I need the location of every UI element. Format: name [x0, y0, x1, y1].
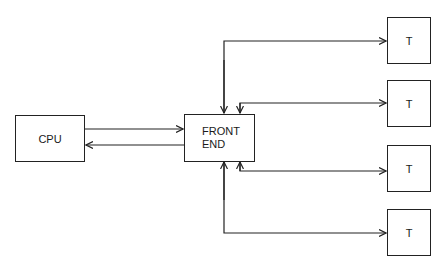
front-end-label-line2: END	[202, 138, 225, 151]
link-frontend-t2	[240, 103, 386, 113]
cpu-node: CPU	[15, 115, 85, 162]
terminal-label: T	[406, 35, 413, 47]
link-frontend-t4	[224, 162, 386, 233]
link-frontend-t3	[240, 162, 386, 171]
terminal-node-2: T	[387, 80, 431, 127]
terminal-node-4: T	[387, 209, 431, 256]
terminal-label: T	[406, 98, 413, 110]
terminal-node-3: T	[387, 145, 431, 192]
cpu-label: CPU	[38, 133, 61, 145]
front-end-label-line1: FRONT	[202, 125, 240, 138]
link-frontend-t1	[224, 41, 386, 113]
terminal-label: T	[406, 163, 413, 175]
front-end-node: FRONT END	[184, 114, 255, 162]
terminal-label: T	[406, 227, 413, 239]
terminal-node-1: T	[387, 17, 431, 64]
